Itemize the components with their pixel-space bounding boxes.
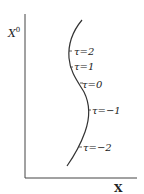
tau-label-2: τ=2 (74, 46, 94, 57)
tau-label-minus-1: τ=−1 (92, 105, 121, 116)
x-axis-label: X (114, 182, 123, 194)
tau-label-0: τ=0 (82, 79, 103, 90)
worldline-diagram: X0 X τ=2 τ=1 τ=0 τ=−1 τ=−2 (0, 0, 144, 194)
tau-label-minus-2: τ=−2 (83, 142, 112, 153)
y-axis-label: X0 (7, 26, 20, 40)
tau-label-1: τ=1 (74, 61, 94, 72)
